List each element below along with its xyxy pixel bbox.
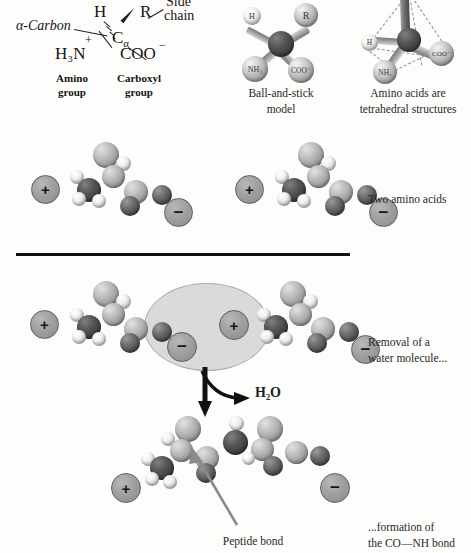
panel-ball-and-stick: H R NH₃ COO⁻ Ball-and-stick model <box>226 0 336 115</box>
charge-badge-positive-1: + <box>31 175 60 204</box>
section-divider <box>16 253 350 256</box>
dipeptide-atom-alpha-carbon-2 <box>285 441 308 464</box>
amino-group-formula: H₃N <box>55 44 85 64</box>
amino-group-caption-line2: group <box>44 86 100 100</box>
ball-atom-coo-label: COO⁻ <box>291 66 311 75</box>
solid-wedge-bond-r <box>120 6 135 23</box>
peptide-bond-pointer-head <box>189 447 203 464</box>
amino-group-caption: Amino group <box>44 72 100 100</box>
amino-acid-molecule-2: + − <box>235 130 405 235</box>
carboxyl-group-text: COO <box>120 44 156 63</box>
carboxyl-group-caption-line1: Carboxyl <box>108 72 170 86</box>
dipeptide-caption-line1: ...formation of <box>368 520 468 536</box>
condensation-charge-positive-inner: + <box>219 310 249 340</box>
amino-acid-peptide-bond-figure: α-Carbon Side chain H R Cα H₃N <box>0 0 471 553</box>
condensation-atom-h-d1 <box>92 332 106 346</box>
ball-and-stick-caption-line2: model <box>226 102 336 118</box>
peptide-bond-label: Peptide bond <box>198 534 308 550</box>
amino-group-text: H₃N <box>55 44 85 63</box>
condensation-atom-c-beta-1 <box>102 303 125 326</box>
ball-atom-nh3-label: NH₃ <box>248 65 262 74</box>
ball-atom-h-label: H <box>249 12 255 21</box>
atom-label-h: H <box>94 2 106 22</box>
atom-label-r: R <box>140 2 151 22</box>
panel-dipeptide: + − Peptid <box>0 410 471 553</box>
condensation-charge-negative-inner: − <box>167 332 197 362</box>
charge-badge-negative-1: − <box>164 198 193 227</box>
tetra-atom-coo: COO⁻ <box>429 41 454 66</box>
charge-badge-positive-2: + <box>235 175 264 204</box>
condensation-caption-line2: water molecule... <box>368 351 468 367</box>
dipeptide-caption: ...formation of the CO—NH bond <box>368 520 468 551</box>
dipeptide-atom-h-d1 <box>163 475 177 489</box>
amino-acid-molecule-1: + − <box>24 130 194 235</box>
peptide-bond-pointer <box>185 445 285 530</box>
tetra-atom-h: H <box>361 34 378 51</box>
condensation-atom-h-d2 <box>279 332 293 346</box>
atom-sphere-oxygen-a2 <box>325 196 345 216</box>
atom-sphere-c-beta-1 <box>102 165 125 188</box>
tetrahedral-caption-line1: Amino acids are <box>345 86 471 102</box>
tetra-atom-h-label: H <box>367 38 372 47</box>
condensation-atom-h-c1 <box>72 330 86 344</box>
atom-sphere-h-c2 <box>277 192 291 206</box>
condensation-amino-acid-1: + <box>24 275 199 380</box>
panel-tetrahedral: H NH₃ COO⁻ Amino acids are tetrahedral s… <box>345 0 471 115</box>
condensation-caption-line1: Removal of a <box>368 335 468 351</box>
dipeptide-atom-h-c1 <box>145 472 159 486</box>
dipeptide-caption-line2: the CO—NH bond <box>368 536 468 552</box>
dipeptide-atom-side-chain-1 <box>175 416 201 442</box>
condensation-atom-oxygen-a1 <box>120 333 140 353</box>
amino-group-caption-line1: Amino <box>44 72 100 86</box>
dipeptide-charge-negative: − <box>320 473 350 503</box>
water-molecule-label: H₂O <box>255 385 281 402</box>
amino-group-charge-sign: + <box>85 33 92 47</box>
condensation-atom-h-c2 <box>260 330 274 344</box>
carboxyl-group-caption-line2: group <box>108 86 170 100</box>
atom-sphere-oxygen-a1 <box>120 196 140 216</box>
ball-atom-coo: COO⁻ <box>288 57 314 83</box>
ball-and-stick-caption: Ball-and-stick model <box>226 86 336 117</box>
ball-atom-alpha-carbon <box>268 31 294 57</box>
peptide-bond-pointer-line <box>197 457 237 525</box>
alpha-carbon-label: α-Carbon <box>16 18 71 35</box>
condensation-charge-positive-1: + <box>30 310 59 339</box>
dipeptide-atom-carboxyl-c <box>310 446 330 466</box>
atom-sphere-h-d2 <box>297 194 311 208</box>
dipeptide-charge-positive: + <box>111 473 141 503</box>
tetrahedral-caption-line2: tetrahedral structures <box>345 102 471 118</box>
tetrahedral-caption: Amino acids are tetrahedral structures <box>345 86 471 117</box>
ball-atom-h: H <box>243 7 261 25</box>
ball-and-stick-caption-line1: Ball-and-stick <box>226 86 336 102</box>
panel-structural-formula: α-Carbon Side chain H R Cα H₃N <box>0 0 215 115</box>
panel-condensation: + − + − <box>0 275 471 400</box>
carboxyl-group-charge-sign: − <box>159 38 166 52</box>
ball-atom-nh3: NH₃ <box>242 56 268 82</box>
carboxyl-group-caption: Carboxyl group <box>108 72 170 100</box>
carboxyl-group-formula: COO <box>120 44 156 64</box>
condensation-atom-oxygen-a2 <box>307 333 327 353</box>
atom-sphere-c-beta-2 <box>307 165 330 188</box>
tetra-atom-coo-label: COO⁻ <box>432 50 451 58</box>
ball-atom-r-label: R <box>303 10 310 21</box>
dipeptide-atom-amide-h <box>229 416 244 431</box>
atom-sphere-h-d1 <box>92 194 106 208</box>
side-chain-label-line2: chain <box>164 8 194 25</box>
atom-sphere-h-c1 <box>72 192 86 206</box>
tetra-atom-alpha-carbon <box>397 28 421 52</box>
condensation-caption: Removal of a water molecule... <box>368 335 468 366</box>
ball-atom-r: R <box>294 3 318 27</box>
tetra-atom-nh3: NH₃ <box>373 60 397 84</box>
water-release-arrow-head <box>234 392 250 405</box>
condensation-atom-c-beta-2 <box>289 303 312 326</box>
panel-two-amino-acids: + − + − Two amin <box>0 130 471 240</box>
water-molecule-text: H₂O <box>255 385 281 400</box>
tetra-atom-nh3-label: NH₃ <box>378 68 391 77</box>
two-amino-acids-caption: Two amino acids <box>368 192 468 208</box>
